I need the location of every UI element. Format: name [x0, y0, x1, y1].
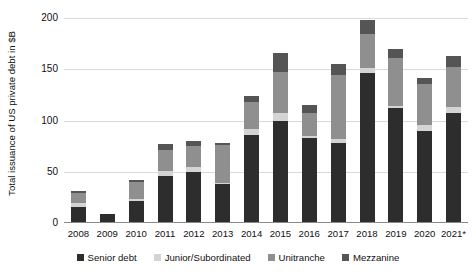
y-axis-tick-label: 100: [22, 114, 58, 125]
chart-legend: Senior debtJunior/SubordinatedUnitranche…: [0, 252, 476, 263]
bar-group[interactable]: [273, 53, 288, 223]
bar-group[interactable]: [388, 49, 403, 223]
legend-swatch-icon: [342, 254, 349, 261]
bar-segment[interactable]: [360, 73, 375, 223]
plot-area: 050100150200: [64, 18, 468, 223]
legend-item-label: Mezzanine: [353, 252, 399, 263]
bar-segment[interactable]: [273, 121, 288, 224]
bar-segment[interactable]: [446, 56, 461, 67]
bar-segment[interactable]: [446, 67, 461, 107]
x-axis-labels: 2008200920102011201220132014201520162017…: [64, 228, 468, 242]
chart-container: Total issuance of US private debt in $B …: [0, 0, 476, 276]
bar-segment[interactable]: [388, 58, 403, 106]
bar-segment[interactable]: [158, 176, 173, 223]
legend-item[interactable]: Unitranche: [268, 252, 325, 263]
bar-segment[interactable]: [215, 184, 230, 223]
y-axis-tick-label: 150: [22, 63, 58, 74]
legend-item[interactable]: Senior debt: [77, 252, 137, 263]
legend-swatch-icon: [154, 254, 161, 261]
bar-segment[interactable]: [215, 145, 230, 183]
legend-swatch-icon: [77, 254, 84, 261]
bar-group[interactable]: [244, 96, 259, 223]
bar-group[interactable]: [360, 20, 375, 223]
bar-segment[interactable]: [331, 75, 346, 139]
bars-layer: [64, 18, 468, 223]
legend-item[interactable]: Junior/Subordinated: [154, 252, 251, 263]
legend-item[interactable]: Mezzanine: [342, 252, 399, 263]
clipped-header-text: [34, 0, 364, 8]
y-axis-tick-label: 50: [22, 165, 58, 176]
bar-segment[interactable]: [388, 108, 403, 223]
y-axis-tick-label: 200: [22, 12, 58, 23]
bar-segment[interactable]: [302, 113, 317, 136]
bar-segment[interactable]: [244, 135, 259, 223]
bar-segment[interactable]: [331, 143, 346, 223]
bar-group[interactable]: [129, 180, 144, 223]
bar-segment[interactable]: [302, 138, 317, 223]
bar-group[interactable]: [417, 78, 432, 223]
bar-segment[interactable]: [273, 72, 288, 113]
bar-group[interactable]: [446, 56, 461, 223]
bar-segment[interactable]: [186, 146, 201, 167]
x-axis-line: [64, 222, 468, 223]
bar-segment[interactable]: [71, 207, 86, 223]
bar-segment[interactable]: [71, 193, 86, 202]
legend-item-label: Senior debt: [88, 252, 137, 263]
bar-group[interactable]: [158, 144, 173, 223]
bar-segment[interactable]: [244, 102, 259, 129]
bar-segment[interactable]: [417, 84, 432, 125]
bar-segment[interactable]: [186, 172, 201, 223]
bar-segment[interactable]: [273, 113, 288, 120]
legend-item-label: Junior/Subordinated: [165, 252, 251, 263]
bar-group[interactable]: [215, 143, 230, 223]
y-axis-tick-label: 0: [22, 217, 58, 228]
bar-group[interactable]: [186, 141, 201, 223]
y-axis-title: Total issuance of US private debt in $B: [6, 6, 17, 221]
bar-segment[interactable]: [446, 113, 461, 223]
bar-segment[interactable]: [331, 64, 346, 75]
bar-segment[interactable]: [388, 49, 403, 58]
legend-item-label: Unitranche: [279, 252, 325, 263]
bar-segment[interactable]: [129, 201, 144, 223]
bar-group[interactable]: [331, 64, 346, 223]
bar-segment[interactable]: [417, 131, 432, 223]
bar-group[interactable]: [71, 191, 86, 223]
x-axis-tick-label: 2021*: [434, 228, 474, 239]
bar-segment[interactable]: [129, 182, 144, 199]
bar-segment[interactable]: [158, 150, 173, 171]
bar-group[interactable]: [302, 105, 317, 223]
legend-swatch-icon: [268, 254, 275, 261]
bar-segment[interactable]: [360, 20, 375, 34]
bar-segment[interactable]: [302, 105, 317, 113]
bar-segment[interactable]: [360, 34, 375, 68]
bar-segment[interactable]: [273, 53, 288, 72]
